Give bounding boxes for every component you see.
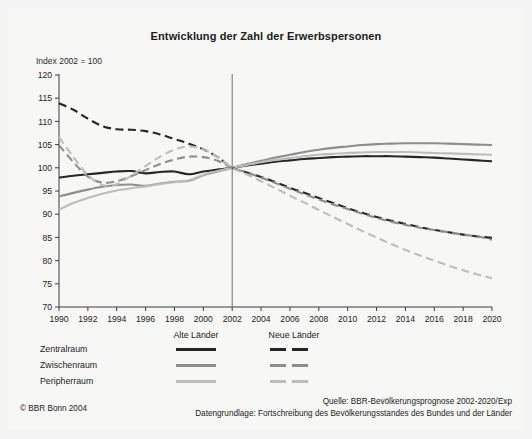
source-line-1: Quelle: BBR-Bevölkerungsprognose 2002-20…: [195, 396, 512, 408]
y-axis-tick-label: 95: [42, 186, 52, 196]
x-axis-tick-label: 2014: [396, 314, 415, 324]
legend-swatch-zentralraum-neue-b: [292, 348, 308, 351]
x-axis-tick-label: 2018: [454, 314, 473, 324]
y-axis-tick-label: 90: [42, 209, 52, 219]
source-line-2: Datengrundlage: Fortschreibung des Bevöl…: [195, 408, 512, 420]
legend-swatch-peripherraum-alte: [176, 380, 216, 383]
x-axis-tick-label: 2012: [367, 314, 386, 324]
x-axis-tick-label: 1996: [136, 314, 155, 324]
x-axis-tick-label: 2006: [280, 314, 299, 324]
x-axis-tick-label: 2000: [194, 314, 213, 324]
legend-swatch-peripherraum-neue-a: [270, 380, 286, 383]
y-axis-tick-label: 105: [38, 140, 53, 150]
screenshot-root: Entwicklung der Zahl der Erwerbspersonen…: [0, 0, 532, 439]
x-axis-tick-label: 2008: [309, 314, 328, 324]
x-axis-tick-label: 1990: [49, 314, 68, 324]
legend-header-alte-laender: Alte Länder: [154, 330, 238, 340]
legend-swatch-zwischenraum-neue-a: [270, 364, 286, 367]
legend-swatch-zwischenraum-neue-b: [292, 364, 308, 367]
copyright-text: © BBR Bonn 2004: [20, 404, 87, 413]
x-axis-tick-label: 2004: [252, 314, 271, 324]
legend-label-zwischenraum: Zwischenraum: [40, 360, 97, 370]
x-axis-tick-label: 2016: [425, 314, 444, 324]
x-axis-tick-label: 1998: [165, 314, 184, 324]
legend-label-peripherraum: Peripherraum: [40, 376, 93, 386]
legend-swatch-peripherraum-neue-b: [292, 380, 308, 383]
y-axis-tick-label: 120: [38, 70, 53, 80]
y-axis-tick-label: 100: [38, 163, 53, 173]
chart-card: Entwicklung der Zahl der Erwerbspersonen…: [8, 8, 524, 431]
legend-label-zentralraum: Zentralraum: [40, 344, 87, 354]
legend-swatch-zwischenraum-alte: [176, 364, 216, 367]
chart-legend: Alte Länder Neue Länder Zentralraum Zwis…: [28, 330, 508, 388]
line-chart-svg: 7075808590951001051101151201990199219941…: [8, 8, 524, 338]
y-axis-tick-label: 75: [42, 279, 52, 289]
y-axis-tick-label: 70: [42, 302, 52, 312]
x-axis-tick-label: 1994: [107, 314, 126, 324]
legend-swatch-zentralraum-alte: [176, 348, 216, 351]
x-axis-tick-label: 2020: [482, 314, 501, 324]
y-axis-tick-label: 115: [38, 93, 52, 103]
legend-header-neue-laender: Neue Länder: [252, 330, 336, 340]
source-block: Quelle: BBR-Bevölkerungsprognose 2002-20…: [195, 396, 512, 420]
x-axis-tick-label: 2010: [338, 314, 357, 324]
y-axis-tick-label: 80: [42, 256, 52, 266]
x-axis-tick-label: 2002: [223, 314, 242, 324]
legend-swatch-zentralraum-neue-a: [270, 348, 286, 351]
y-axis-tick-label: 85: [42, 233, 52, 243]
y-axis-tick-label: 110: [38, 117, 52, 127]
x-axis-tick-label: 1992: [78, 314, 97, 324]
